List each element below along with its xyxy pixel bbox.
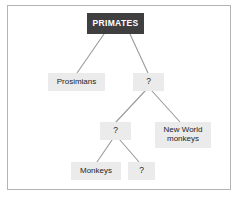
- node-unknown-a[interactable]: ?: [133, 73, 164, 91]
- node-unknown-c[interactable]: ?: [128, 162, 155, 180]
- edge-primates-unknown-a: [130, 34, 148, 73]
- cladogram-figure: PRIMATES Prosimians ? ? New World monkey…: [0, 0, 239, 198]
- node-new-world-monkeys[interactable]: New World monkeys: [155, 122, 211, 148]
- edge-unknown-a-unknown-b: [116, 91, 145, 122]
- edge-unknown-b-monkeys: [97, 140, 112, 162]
- node-prosimians[interactable]: Prosimians: [48, 73, 105, 91]
- edge-unknown-a-new-world: [152, 91, 180, 122]
- node-unknown-b[interactable]: ?: [100, 122, 131, 140]
- edge-unknown-b-unknown-c: [120, 140, 139, 162]
- node-monkeys[interactable]: Monkeys: [71, 162, 121, 180]
- edge-primates-prosimians: [77, 34, 104, 73]
- node-primates[interactable]: PRIMATES: [87, 13, 144, 34]
